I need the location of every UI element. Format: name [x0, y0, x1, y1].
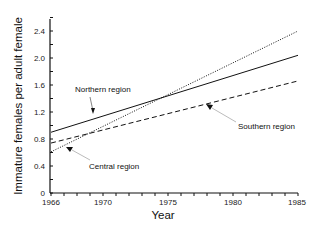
- line-chart: 0 0.4 0.8 1.2 1.6 2.0 2.4 1966 1970 1975…: [0, 0, 319, 231]
- x-tick-label: 1966: [42, 198, 60, 207]
- y-tick-labels: 0 0.4 0.8 1.2 1.6 2.0 2.4: [34, 27, 46, 198]
- arrow-southern: [212, 108, 236, 122]
- x-tick-labels: 1966 1970 1975 1980 1985: [42, 198, 306, 207]
- annotation-central: Central region: [89, 162, 139, 171]
- y-axis-title: Immature females per adult female: [12, 17, 24, 195]
- y-tick-label: 1.2: [34, 108, 46, 117]
- y-tick-label: 2.0: [34, 54, 46, 63]
- arrow-central: [72, 150, 90, 160]
- annotation-northern: Northern region: [75, 85, 131, 94]
- arrowhead-southern-icon: [206, 104, 213, 110]
- arrowhead-northern-icon: [91, 108, 95, 114]
- x-tick-label: 1980: [224, 198, 242, 207]
- arrowhead-central-icon: [66, 147, 73, 152]
- x-tick-label: 1985: [288, 198, 306, 207]
- y-tick-label: 0: [41, 189, 46, 198]
- annotation-southern: Southern region: [238, 122, 295, 131]
- y-tick-label: 2.4: [34, 27, 46, 36]
- y-tick-label: 1.6: [34, 81, 46, 90]
- x-tick-label: 1970: [94, 198, 112, 207]
- y-tick-label: 0.4: [34, 162, 46, 171]
- x-tick-label: 1975: [159, 198, 177, 207]
- x-axis-title: Year: [151, 209, 174, 221]
- y-tick-label: 0.8: [34, 135, 46, 144]
